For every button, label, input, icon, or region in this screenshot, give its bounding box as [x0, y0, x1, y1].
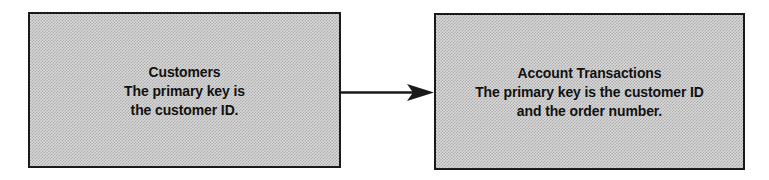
diagram-canvas: Customers The primary key is the custome…: [0, 0, 769, 180]
entity-customers-description-line-1: The primary key is: [41, 81, 328, 100]
entity-box-customers[interactable]: Customers The primary key is the custome…: [28, 12, 341, 168]
entity-account-transactions-description-line-1: The primary key is the customer ID: [447, 82, 733, 101]
entity-account-transactions-description-line-2: and the order number.: [447, 101, 733, 120]
relationship-arrow-head: [407, 84, 434, 101]
entity-account-transactions-title: Account Transactions: [447, 63, 733, 82]
entity-customers-text: Customers The primary key is the custome…: [41, 62, 328, 119]
entity-box-account-transactions[interactable]: Account Transactions The primary key is …: [434, 13, 745, 170]
relationship-arrow-icon: [339, 80, 437, 105]
entity-customers-title: Customers: [41, 62, 328, 81]
entity-customers-description-line-2: the customer ID.: [41, 100, 328, 119]
entity-account-transactions-text: Account Transactions The primary key is …: [447, 63, 733, 120]
